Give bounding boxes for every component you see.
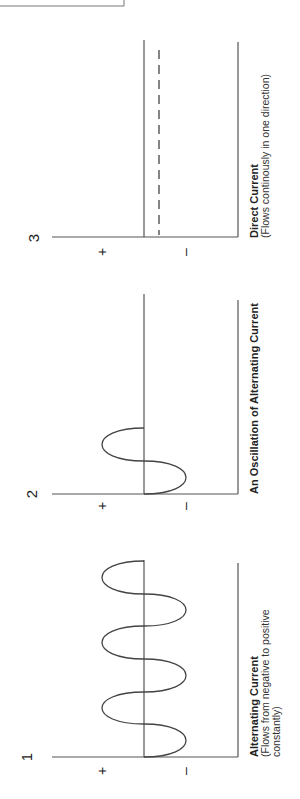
positive-label: + [94, 767, 110, 775]
panel-title: An Oscillation of Alternating Current [248, 303, 260, 494]
panel-number: 1 [18, 753, 35, 761]
negative-label: – [177, 767, 193, 775]
panel-subtitle-line2: constantly) [270, 706, 282, 757]
current-diagram: 3 + – Direct Current (Flows continously … [0, 0, 300, 799]
panel-number: 3 [25, 234, 42, 242]
panel-alternating-current: 1 + – Alternating Current (Flows from ne… [18, 560, 282, 775]
positive-label: + [94, 502, 110, 510]
negative-label: – [177, 502, 193, 510]
panel-oscillation: 2 + – An Oscillation of Alternating Curr… [23, 294, 260, 510]
negative-label: – [177, 248, 193, 256]
positive-label: + [94, 248, 110, 256]
cutoff-box [0, 0, 124, 6]
panel-subtitle: (Flows continously in one direction) [259, 74, 271, 238]
panel-direct-current: 3 + – Direct Current (Flows continously … [25, 40, 271, 256]
panel-number: 2 [23, 490, 40, 498]
